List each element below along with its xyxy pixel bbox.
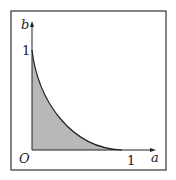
y-axis-label: b — [21, 17, 29, 32]
diagram-canvas: b 1 O 1 a — [0, 0, 176, 180]
y-tick-label: 1 — [22, 43, 30, 58]
x-axis-label: a — [151, 150, 159, 165]
origin-label: O — [19, 151, 30, 166]
x-tick-label: 1 — [127, 153, 135, 168]
